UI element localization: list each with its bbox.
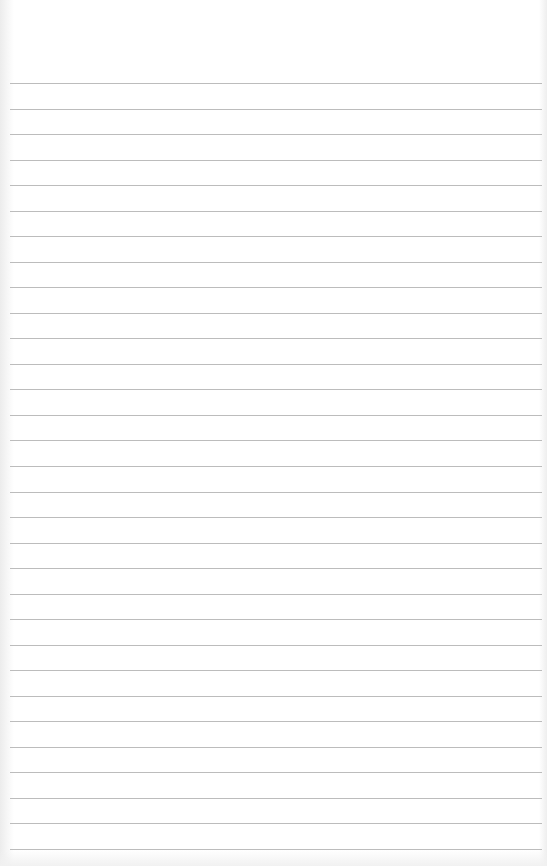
ruled-line [10, 440, 542, 441]
paper-right-shadow [539, 0, 547, 866]
paper-left-shadow [0, 0, 14, 866]
ruled-line [10, 262, 542, 263]
ruled-line [10, 211, 542, 212]
ruled-line [10, 109, 542, 110]
ruled-line [10, 721, 542, 722]
ruled-line [10, 517, 542, 518]
lined-paper-sheet [0, 0, 547, 866]
ruled-line [10, 185, 542, 186]
ruled-line [10, 568, 542, 569]
paper-bottom-shadow [0, 850, 547, 866]
ruled-line [10, 849, 542, 850]
ruled-line [10, 160, 542, 161]
ruled-line [10, 364, 542, 365]
ruled-line [10, 543, 542, 544]
ruled-line [10, 696, 542, 697]
ruled-line [10, 619, 542, 620]
ruled-line [10, 798, 542, 799]
ruled-line [10, 415, 542, 416]
ruled-line [10, 466, 542, 467]
ruled-line [10, 83, 542, 84]
ruled-line [10, 823, 542, 824]
ruled-line [10, 287, 542, 288]
ruled-line [10, 313, 542, 314]
ruled-line [10, 670, 542, 671]
ruled-line [10, 747, 542, 748]
ruled-line [10, 338, 542, 339]
ruled-line [10, 389, 542, 390]
ruled-line [10, 645, 542, 646]
ruled-line [10, 772, 542, 773]
ruled-line [10, 594, 542, 595]
ruled-line [10, 492, 542, 493]
ruled-line [10, 236, 542, 237]
ruled-line [10, 134, 542, 135]
